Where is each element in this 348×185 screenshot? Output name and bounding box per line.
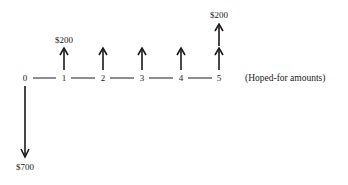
up-arrow-icon <box>60 48 68 70</box>
period-label-5: 5 <box>217 73 222 83</box>
outflow-amount-period-0: $700 <box>16 162 34 172</box>
period-label-2: 2 <box>101 73 106 83</box>
up-arrow-icon <box>138 48 146 70</box>
period-label-4: 4 <box>179 73 184 83</box>
down-arrow-icon <box>21 86 29 157</box>
period-label-0: 0 <box>23 73 28 83</box>
up-arrow-icon <box>99 48 107 70</box>
period-label-1: 1 <box>62 73 67 83</box>
inflow-arrows <box>60 24 223 70</box>
up-arrow-icon <box>215 48 223 70</box>
up-arrow-stacked-icon <box>215 24 223 46</box>
cash-flow-diagram: 0 1 2 3 4 5 $200 $200 $700 (Hoped-for am… <box>0 0 348 185</box>
period-label-3: 3 <box>140 73 145 83</box>
hoped-for-note: (Hoped-for amounts) <box>245 73 325 83</box>
timeline-graphics <box>0 0 348 185</box>
inflow-amount-period-1: $200 <box>55 35 73 45</box>
inflow-amount-period-5: $200 <box>210 10 228 20</box>
up-arrow-icon <box>177 48 185 70</box>
